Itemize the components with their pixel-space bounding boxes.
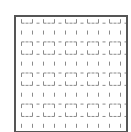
dashed-grid-pattern xyxy=(16,17,126,131)
grid-frame xyxy=(14,15,128,132)
